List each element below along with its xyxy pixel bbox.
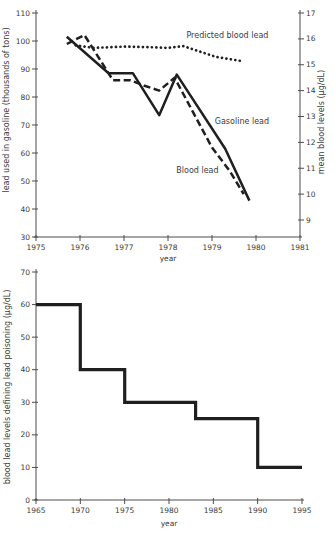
x-axis-tick-label: 1979 <box>202 243 221 252</box>
x-axis-tick-label: 1978 <box>158 243 177 252</box>
bottom-chart-figure: 0102030405060701965197019751980198519901… <box>0 266 334 533</box>
right-axis-tick-label: 16 <box>306 34 316 43</box>
series-label-blood-lead: Blood lead <box>176 166 218 175</box>
right-axis-tick-label: 17 <box>306 9 316 18</box>
gasoline-blood-lead-chart: 3040506070809010011091011121314151617197… <box>0 0 334 266</box>
left-axis-title: blood lead levels defining lead poisonin… <box>3 290 12 485</box>
left-axis-tick-label: 90 <box>20 65 30 74</box>
right-axis-tick-label: 9 <box>306 216 311 225</box>
right-axis-tick-label: 12 <box>306 138 316 147</box>
left-axis-tick-label: 70 <box>20 121 30 130</box>
series-blood-lead-level-defining-lead-poisoning <box>36 305 302 468</box>
x-axis-tick-label: 1980 <box>246 243 265 252</box>
x-axis-tick-label: 1970 <box>71 506 90 515</box>
x-axis-tick-label: 1990 <box>248 506 267 515</box>
left-axis-tick-label: 20 <box>20 430 30 439</box>
right-axis-title: mean blood levels (µg/dL) <box>317 70 326 174</box>
left-axis-tick-label: 50 <box>20 333 30 342</box>
right-axis-tick-label: 13 <box>306 112 316 121</box>
left-axis-tick-label: 80 <box>20 93 30 102</box>
left-axis-tick-label: 30 <box>20 398 30 407</box>
right-axis-tick-label: 10 <box>306 190 316 199</box>
x-axis-tick-label: 1975 <box>26 243 45 252</box>
left-axis-tick-label: 110 <box>16 9 31 18</box>
lead-poisoning-threshold-chart: 0102030405060701965197019751980198519901… <box>0 266 334 533</box>
left-axis-tick-label: 40 <box>20 365 30 374</box>
left-axis-tick-label: 0 <box>25 496 30 505</box>
left-axis-tick-label: 60 <box>20 149 30 158</box>
x-axis-tick-label: 1965 <box>26 506 45 515</box>
x-axis-tick-label: 1985 <box>204 506 223 515</box>
series-label-predicted-blood-lead: Predicted blood lead <box>186 31 268 40</box>
series-label-gasoline-lead: Gasoline lead <box>215 117 269 126</box>
x-axis-title: year <box>160 254 178 263</box>
right-axis-tick-label: 11 <box>306 164 316 173</box>
left-axis-tick-label: 30 <box>20 233 30 242</box>
right-axis-tick-label: 15 <box>306 60 316 69</box>
x-axis-tick-label: 1975 <box>115 506 134 515</box>
figure-page: 3040506070809010011091011121314151617197… <box>0 0 334 533</box>
left-axis-tick-label: 60 <box>20 300 30 309</box>
right-axis-tick-label: 14 <box>306 86 316 95</box>
left-axis-tick-label: 50 <box>20 177 30 186</box>
left-axis-tick-label: 40 <box>20 205 30 214</box>
x-axis-tick-label: 1981 <box>290 243 309 252</box>
top-chart-figure: 3040506070809010011091011121314151617197… <box>0 0 334 266</box>
x-axis-tick-label: 1995 <box>292 506 311 515</box>
x-axis-title: year <box>161 519 179 528</box>
left-axis-tick-label: 10 <box>20 463 30 472</box>
left-axis-title: lead used in gasoline (thousands of tons… <box>2 27 11 192</box>
x-axis-tick-label: 1977 <box>114 243 133 252</box>
x-axis-tick-label: 1976 <box>70 243 89 252</box>
left-axis-tick-label: 70 <box>20 268 30 277</box>
x-axis-tick-label: 1980 <box>159 506 178 515</box>
left-axis-tick-label: 100 <box>16 37 31 46</box>
